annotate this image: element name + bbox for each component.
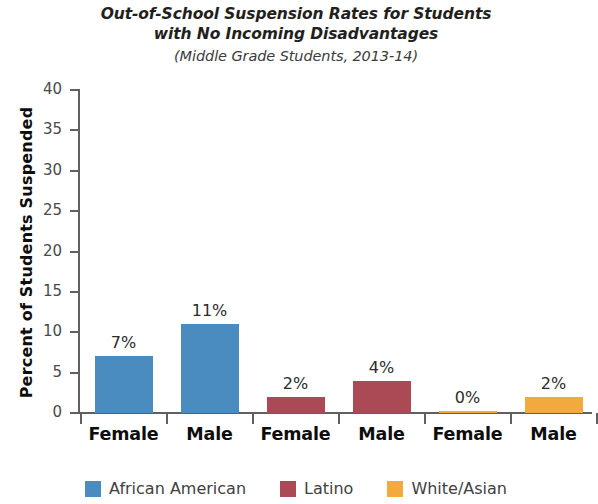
y-axis-tick-label: 10 — [28, 324, 62, 339]
bar-value-label: 11% — [170, 302, 250, 319]
x-axis-tick — [166, 413, 168, 424]
x-axis-tick — [424, 413, 426, 424]
y-axis-tick — [70, 89, 79, 91]
y-axis-tick — [70, 251, 79, 253]
legend-swatch-icon — [280, 481, 296, 497]
bar — [181, 324, 239, 413]
bar — [525, 397, 583, 413]
y-axis-tick-label-text: 25 — [28, 203, 62, 218]
legend-item-label: Latino — [304, 480, 353, 497]
legend-item: African American — [85, 480, 246, 497]
bar — [267, 397, 325, 413]
y-axis-tick — [70, 210, 79, 212]
bar-value-label: 4% — [342, 359, 422, 376]
y-axis-tick — [70, 331, 79, 333]
y-axis-tick — [70, 170, 79, 172]
bar-value-label: 7% — [84, 334, 164, 351]
legend-swatch-icon — [85, 481, 101, 497]
y-axis-tick-label: 25 — [28, 203, 62, 218]
x-axis-tick — [510, 413, 512, 424]
y-axis-tick-label-text: 20 — [28, 244, 62, 259]
legend-item-label: African American — [109, 480, 246, 497]
y-axis-tick-label: 5 — [28, 365, 62, 380]
y-axis-tick-label-text: 5 — [28, 365, 62, 380]
y-axis-tick-label: 20 — [28, 244, 62, 259]
x-axis-category-label: Female — [425, 424, 511, 444]
x-axis-tick — [80, 413, 82, 424]
y-axis-tick-label-text: 15 — [28, 284, 62, 299]
y-axis-tick-label: 15 — [28, 284, 62, 299]
x-axis-category-label: Male — [339, 424, 425, 444]
y-axis-tick-label-text: 40 — [28, 82, 62, 97]
x-axis-category-label: Female — [253, 424, 339, 444]
bar — [353, 381, 411, 413]
y-axis-tick-label: 0 — [28, 405, 62, 420]
x-axis-category-label: Female — [81, 424, 167, 444]
x-axis-category-label: Male — [167, 424, 253, 444]
y-axis-tick-label: 30 — [28, 163, 62, 178]
x-axis-tick — [338, 413, 340, 424]
x-axis-tick — [252, 413, 254, 424]
bar-value-label: 2% — [256, 375, 336, 392]
legend-item: White/Asian — [387, 480, 507, 497]
bar-value-label: 2% — [514, 375, 594, 392]
y-axis-tick-label: 35 — [28, 122, 62, 137]
legend-item-label: White/Asian — [411, 480, 507, 497]
y-axis-tick — [70, 412, 79, 414]
y-axis-tick-label: 40 — [28, 82, 62, 97]
x-axis-tick — [596, 413, 598, 424]
y-axis-tick — [70, 372, 79, 374]
y-axis-tick — [70, 129, 79, 131]
y-axis-tick-label-text: 35 — [28, 122, 62, 137]
legend-item: Latino — [280, 480, 353, 497]
bar — [95, 356, 153, 413]
y-axis-tick-label-text: 0 — [28, 405, 62, 420]
y-axis-tick-label-text: 30 — [28, 163, 62, 178]
legend-swatch-icon — [387, 481, 403, 497]
bar — [439, 411, 497, 414]
y-axis-tick — [70, 291, 79, 293]
x-axis-category-label: Male — [511, 424, 597, 444]
chart-legend: African AmericanLatinoWhite/Asian — [0, 480, 592, 497]
bar-value-label: 0% — [428, 389, 508, 406]
y-axis-tick-label-text: 10 — [28, 324, 62, 339]
